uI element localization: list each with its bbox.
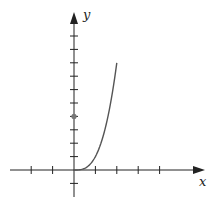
x-axis-arrow-icon bbox=[193, 166, 205, 174]
axes bbox=[10, 12, 205, 197]
y-intercept-point bbox=[71, 114, 76, 119]
function-curve bbox=[74, 63, 117, 170]
axis-ticks bbox=[31, 36, 159, 183]
y-axis-label: y bbox=[82, 7, 91, 22]
y-axis-arrow-icon bbox=[70, 12, 78, 24]
x-axis-label: x bbox=[199, 174, 207, 189]
function-graph: x y bbox=[0, 0, 216, 203]
